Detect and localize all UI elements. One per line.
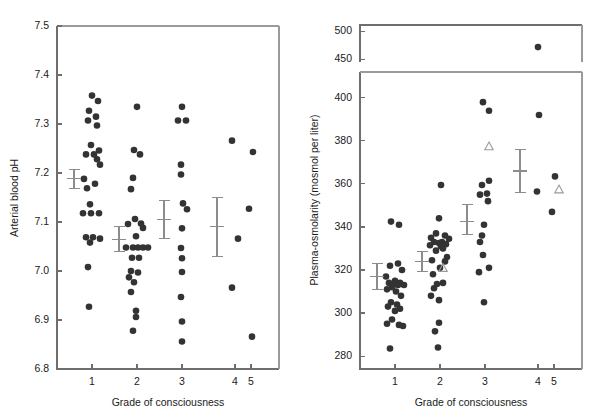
y-ticklabel: 7.3: [34, 117, 49, 129]
x-ticklabel: 4: [535, 375, 541, 387]
data-point: [430, 271, 437, 278]
y-ticklabel: 380: [334, 134, 352, 146]
data-point: [428, 293, 435, 300]
data-point: [481, 222, 488, 229]
data-point: [178, 294, 185, 301]
x-axis-ticks: [92, 364, 251, 369]
data-point: [130, 327, 137, 334]
data-point: [87, 239, 94, 246]
data-point: [97, 161, 104, 168]
data-point: [480, 99, 487, 106]
triangle-markers: [439, 142, 563, 271]
data-point: [229, 284, 236, 291]
data-point: [134, 104, 141, 111]
y-axis-title: Plasma-osmolarity (mosmol per liter): [308, 115, 320, 286]
y-axis-ticks: [57, 26, 62, 369]
data-point: [145, 244, 152, 251]
data-point: [486, 177, 493, 184]
x-ticklabel: 5: [248, 375, 254, 387]
data-point: [136, 254, 143, 261]
data-point: [479, 232, 486, 239]
data-point: [126, 274, 133, 281]
data-point: [184, 206, 191, 213]
data-point: [123, 244, 130, 251]
data-point: [178, 245, 185, 252]
data-point: [95, 98, 102, 105]
data-point: [235, 235, 242, 242]
data-point: [534, 188, 541, 195]
data-point: [549, 209, 556, 216]
data-point: [388, 218, 395, 225]
data-point: [179, 104, 186, 111]
data-point: [485, 198, 492, 205]
x-axis-ticklabels: 12345: [89, 375, 254, 387]
data-point: [389, 316, 396, 323]
data-point: [385, 303, 392, 310]
data-point: [137, 151, 144, 158]
data-point: [399, 267, 406, 274]
x-axis-title: Grade of consciousness: [415, 396, 528, 408]
data-point: [131, 279, 138, 286]
data-point: [395, 260, 402, 267]
data-point: [440, 280, 447, 287]
y-ticklabel: 340: [334, 220, 352, 232]
data-point: [436, 215, 443, 222]
error-bars: [370, 149, 527, 289]
y-axis-ticklabels: 6.86.97.07.17.27.37.47.5: [34, 19, 49, 374]
axis-frame: [57, 26, 279, 369]
data-point: [477, 191, 484, 198]
data-point: [86, 107, 93, 114]
y-ticklabel: 400: [334, 91, 352, 103]
x-ticklabel: 4: [232, 375, 238, 387]
x-ticklabel: 2: [437, 375, 443, 387]
y-ticklabel: 6.8: [34, 362, 49, 374]
data-point: [481, 299, 488, 306]
data-point: [92, 180, 99, 187]
scatter-figure: 6.86.97.07.17.27.37.47.5 12345 Grade of …: [0, 0, 599, 419]
plasma-osmolarity-plot: 280300320340360380400450500 12345 Grade …: [300, 0, 599, 419]
data-points: [80, 92, 257, 345]
y-ticklabel: 7.1: [34, 215, 49, 227]
data-point: [133, 314, 140, 321]
data-point: [87, 201, 94, 208]
data-point: [433, 247, 440, 254]
data-point: [384, 286, 391, 293]
data-point: [477, 239, 484, 246]
y-axis-ticklabels: 280300320340360380400450500: [334, 24, 352, 360]
y-ticklabel: 280: [334, 349, 352, 361]
y-axis-ticks: [360, 32, 365, 356]
data-point: [246, 205, 253, 212]
arterial-ph-plot: 6.86.97.07.17.27.37.47.5 12345 Grade of …: [0, 0, 300, 419]
data-points: [383, 44, 559, 352]
data-point: [480, 252, 487, 259]
data-point: [179, 269, 186, 276]
y-ticklabel-upper: 500: [334, 24, 352, 36]
data-point: [130, 175, 137, 182]
data-point: [476, 269, 483, 276]
data-point: [250, 149, 257, 156]
x-ticklabel: 5: [551, 375, 557, 387]
data-point: [401, 282, 408, 289]
x-axis-ticklabels: 12345: [392, 375, 557, 387]
data-point: [384, 321, 391, 328]
data-point: [80, 210, 87, 217]
data-point: [88, 142, 95, 149]
data-point: [179, 318, 186, 325]
data-point: [396, 222, 403, 229]
x-ticklabel: 3: [482, 375, 488, 387]
y-axis-title: Arterial blood pH: [8, 159, 20, 237]
data-point: [536, 112, 543, 119]
x-ticklabel: 1: [392, 375, 398, 387]
data-point: [395, 282, 402, 289]
y-ticklabel: 7.5: [34, 19, 49, 31]
data-point: [486, 107, 493, 114]
data-point: [131, 147, 138, 154]
data-point: [535, 44, 542, 51]
data-point: [431, 285, 438, 292]
data-point: [398, 293, 405, 300]
data-point: [84, 185, 91, 192]
data-point: [133, 233, 140, 240]
data-point: [129, 254, 136, 261]
x-ticklabel: 1: [89, 375, 95, 387]
x-axis-title: Grade of consciousness: [112, 396, 225, 408]
